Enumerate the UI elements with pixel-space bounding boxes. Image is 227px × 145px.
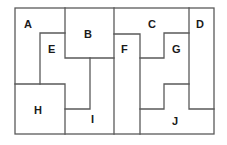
- puzzle-diagram: A B C D E F G H I J: [0, 0, 227, 145]
- label-d: D: [196, 18, 204, 30]
- region-borders: [15, 8, 214, 134]
- label-f: F: [121, 43, 128, 55]
- label-j: J: [172, 115, 178, 127]
- i-border: [65, 58, 90, 109]
- label-e: E: [48, 43, 55, 55]
- label-i: I: [91, 113, 94, 125]
- label-h: H: [34, 104, 42, 116]
- label-a: A: [24, 18, 32, 30]
- label-c: C: [148, 18, 156, 30]
- j-border: [140, 84, 189, 109]
- e-border: [40, 33, 65, 84]
- label-b: B: [84, 28, 92, 40]
- c-border: [140, 33, 189, 58]
- label-g: G: [172, 43, 181, 55]
